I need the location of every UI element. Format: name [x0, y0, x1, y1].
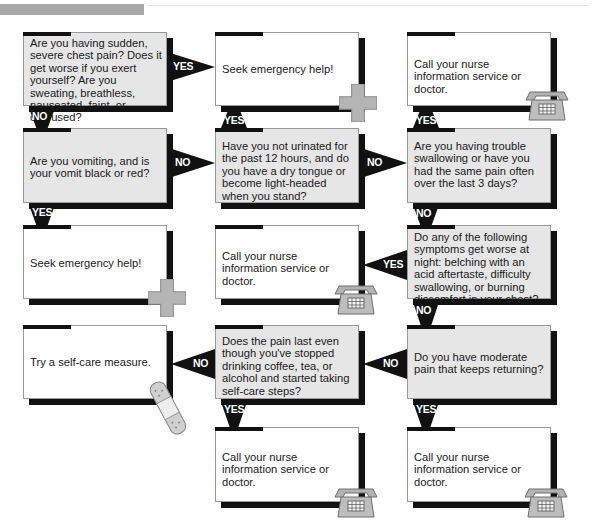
node-tab: [407, 128, 455, 132]
medical-cross-icon: [148, 279, 186, 317]
node-shadow: [551, 134, 557, 209]
edge-label: YES: [416, 403, 436, 415]
node-text: Seek emergency help!: [30, 257, 162, 299]
edge-no-q2-q3: NO: [169, 148, 215, 178]
edge-no-q6-a5: NO: [171, 349, 215, 379]
node-text: Seek emergency help!: [222, 63, 354, 106]
telephone-icon: [524, 86, 570, 122]
edge-yes-q5-a4: YES: [363, 250, 407, 280]
answer-node-self-care: Try a self-care measure.: [23, 325, 167, 399]
node-shadow: [551, 331, 557, 405]
node-tab: [407, 225, 455, 229]
edge-yes-q2-a3: YES: [29, 205, 55, 227]
node-tab: [215, 427, 263, 431]
question-node-urination: Have you not urinated for the past 12 ho…: [215, 128, 359, 203]
node-text: Are you vomiting, and is your vomit blac…: [30, 155, 162, 203]
node-tab: [215, 225, 263, 229]
edge-no-q3-q4: NO: [361, 148, 407, 178]
edge-label: YES: [416, 114, 436, 126]
node-tab: [23, 325, 71, 329]
node-tab: [407, 427, 455, 431]
telephone-icon: [523, 483, 569, 519]
edge-label: YES: [224, 403, 244, 415]
edge-label: NO: [175, 156, 190, 168]
edge-label: NO: [416, 304, 431, 316]
edge-label: NO: [367, 156, 382, 168]
edge-label: YES: [173, 60, 193, 72]
node-text: Do any of the following symptoms get wor…: [414, 231, 546, 299]
answer-node-emergency-1: Seek emergency help!: [215, 32, 359, 106]
medical-cross-icon: [339, 84, 377, 122]
edge-label: YES: [32, 206, 52, 218]
edge-label: NO: [32, 110, 47, 122]
bandage-icon: [148, 378, 188, 438]
node-tab: [215, 325, 263, 329]
telephone-icon: [333, 280, 379, 316]
header-bar: [0, 4, 144, 15]
edge-no-q7-q6: NO: [363, 349, 407, 379]
node-shadow: [221, 203, 365, 209]
edge-label: YES: [224, 114, 244, 126]
edge-label: NO: [416, 207, 431, 219]
edge-yes-q6-a6: YES: [221, 402, 247, 428]
question-node-vomiting: Are you vomiting, and is your vomit blac…: [23, 128, 167, 203]
node-shadow: [551, 231, 557, 305]
header-rule: [148, 5, 588, 6]
edge-no-q5-q7: NO: [413, 302, 439, 326]
edge-no-q4-q5: NO: [413, 205, 439, 227]
edge-label: NO: [193, 357, 208, 369]
node-tab: [407, 32, 455, 36]
edge-no-q1-q2: NO: [29, 108, 55, 130]
edge-label: YES: [383, 258, 403, 270]
node-text: Are you having sudden, severe chest pain…: [30, 37, 162, 106]
node-tab: [23, 128, 71, 132]
node-text: Have you not urinated for the past 12 ho…: [222, 140, 354, 203]
node-tab: [215, 128, 263, 132]
edge-yes-q1-a1: YES: [167, 52, 215, 82]
node-text: Do you have moderate pain that keeps ret…: [414, 351, 546, 399]
node-tab: [23, 225, 71, 229]
question-node-moderate-pain: Do you have moderate pain that keeps ret…: [407, 325, 551, 399]
node-tab: [215, 32, 263, 36]
node-text: Does the pain last even though you've st…: [222, 335, 354, 399]
question-node-pain-lasting: Does the pain last even though you've st…: [215, 325, 359, 399]
node-text: Try a self-care measure.: [30, 356, 162, 399]
edge-label: NO: [383, 357, 398, 369]
edge-yes-q3-a1: YES: [221, 108, 247, 128]
node-tab: [407, 325, 455, 329]
node-text: Are you having trouble swallowing or hav…: [414, 140, 546, 203]
answer-node-emergency-2: Seek emergency help!: [23, 225, 167, 299]
telephone-icon: [333, 483, 379, 519]
question-node-swallowing: Are you having trouble swallowing or hav…: [407, 128, 551, 203]
edge-yes-q7-a7: YES: [413, 402, 439, 428]
question-node-chest-pain: Are you having sudden, severe chest pain…: [23, 32, 167, 106]
edge-yes-q4-a2: YES: [413, 108, 439, 128]
node-tab: [23, 32, 71, 36]
question-node-night-symptoms: Do any of the following symptoms get wor…: [407, 225, 551, 299]
